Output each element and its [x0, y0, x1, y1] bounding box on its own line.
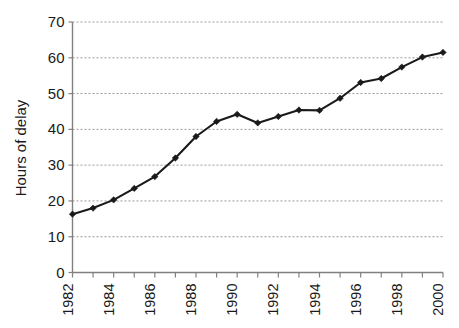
- y-tick-label-20: 20: [48, 192, 65, 209]
- x-tick-label-1982: 1982: [60, 284, 76, 316]
- y-axis-title: Hours of delay: [12, 99, 29, 196]
- y-tick-label-70: 70: [48, 13, 65, 30]
- x-tick-label-1996: 1996: [348, 284, 364, 316]
- chart-canvas: 010203040506070 198219841986198819901992…: [0, 0, 459, 328]
- y-tick-label-10: 10: [48, 228, 65, 245]
- y-tick-label-40: 40: [48, 120, 65, 137]
- x-tick-label-1988: 1988: [183, 284, 199, 316]
- chart-background: [0, 0, 459, 328]
- y-tick-label-0: 0: [56, 264, 64, 281]
- x-tick-label-1992: 1992: [265, 284, 281, 316]
- x-tick-label-1986: 1986: [142, 284, 158, 316]
- y-tick-label-30: 30: [48, 156, 65, 173]
- x-tick-label-1984: 1984: [101, 284, 117, 316]
- x-tick-label-1998: 1998: [389, 284, 405, 316]
- x-tick-label-1994: 1994: [307, 284, 323, 316]
- y-tick-label-60: 60: [48, 49, 65, 66]
- x-tick-label-2000: 2000: [430, 284, 446, 316]
- y-tick-label-50: 50: [48, 85, 65, 102]
- x-tick-label-1990: 1990: [224, 284, 240, 316]
- chart-page: 010203040506070 198219841986198819901992…: [0, 0, 459, 328]
- line-chart-figure: 010203040506070 198219841986198819901992…: [0, 0, 459, 328]
